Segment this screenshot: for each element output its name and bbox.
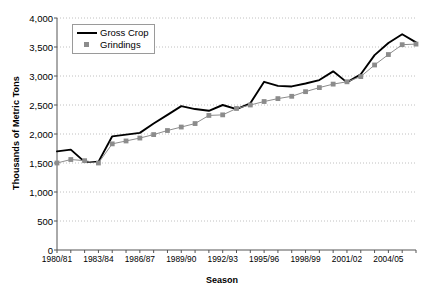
series-marker [331, 82, 336, 87]
series-marker [151, 132, 156, 137]
series-marker [110, 141, 115, 146]
plot-area [0, 0, 444, 295]
series-marker [262, 99, 267, 104]
legend-square-icon [84, 42, 89, 47]
series-marker [82, 158, 87, 163]
legend-label: Grindings [100, 39, 141, 51]
legend-line-icon [77, 32, 97, 34]
series-marker [303, 89, 308, 94]
series-marker [234, 106, 239, 111]
series-marker [414, 42, 419, 47]
series-marker [124, 139, 129, 144]
series-marker [345, 79, 350, 84]
series-marker [358, 74, 363, 79]
series-marker [220, 112, 225, 117]
legend-line-swatch [77, 27, 97, 38]
series-marker [276, 96, 281, 101]
series-marker [96, 161, 101, 166]
series-marker [179, 125, 184, 130]
series-marker [372, 63, 377, 68]
series-marker [206, 113, 211, 118]
series-marker [248, 103, 253, 108]
series-marker [193, 121, 198, 126]
series-marker [165, 128, 170, 133]
series-marker [68, 157, 73, 162]
series-marker [137, 136, 142, 141]
series-marker [317, 85, 322, 90]
series-marker [400, 42, 405, 47]
chart-figure: Thousands of Metric Tons Season 05001,00… [0, 0, 444, 295]
legend-label: Gross Crop [100, 27, 149, 39]
series-marker [386, 52, 391, 57]
series-marker [289, 94, 294, 99]
legend-item: Gross Crop [77, 27, 149, 39]
chart-legend: Gross CropGrindings [72, 24, 155, 54]
legend-square-swatch [77, 39, 97, 50]
series-marker [55, 161, 60, 166]
legend-item: Grindings [77, 39, 149, 51]
